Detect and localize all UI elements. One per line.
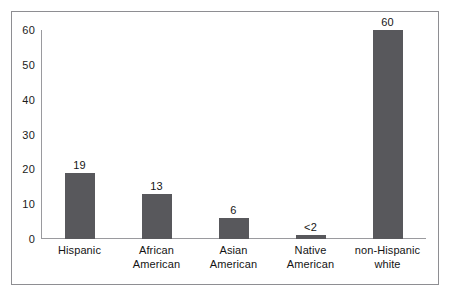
category-label-line: American — [210, 258, 257, 272]
bar[interactable] — [219, 218, 249, 239]
y-tick-label: 40 — [22, 94, 35, 106]
category-label-line: white — [355, 258, 420, 272]
category-label: Native American — [287, 244, 334, 271]
bar-value-label: 13 — [150, 180, 163, 192]
category-label-line: American — [287, 258, 334, 272]
chart-frame: 0 10 20 30 40 50 60 19 13 6 <2 — [11, 11, 439, 285]
category-label-line: American — [133, 258, 180, 272]
category-label: Asian American — [210, 244, 257, 271]
bar-group: <2 — [272, 30, 349, 239]
bar-group: 13 — [118, 30, 195, 239]
y-tick-label: 10 — [22, 198, 35, 210]
plot-area: 0 10 20 30 40 50 60 19 13 6 <2 — [41, 30, 426, 239]
bar[interactable] — [296, 235, 326, 239]
bar[interactable] — [373, 30, 403, 239]
bar[interactable] — [142, 194, 172, 239]
category-label-line: Asian — [210, 244, 257, 258]
category-label: African American — [133, 244, 180, 271]
y-tick-label: 60 — [22, 24, 35, 36]
bar-group: 6 — [195, 30, 272, 239]
bar-group: 19 — [41, 30, 118, 239]
bar-group: 60 — [349, 30, 426, 239]
bar-value-label: <2 — [304, 221, 317, 233]
category-label-line: African — [133, 244, 180, 258]
bar-value-label: 6 — [230, 204, 236, 216]
y-tick-label: 20 — [22, 163, 35, 175]
category-label-line: Native — [287, 244, 334, 258]
bar-value-label: 19 — [73, 159, 86, 171]
x-axis-category-labels: Hispanic African American Asian American… — [41, 244, 426, 286]
y-tick-label: 50 — [22, 59, 35, 71]
y-tick-label: 30 — [22, 129, 35, 141]
y-tick-label: 0 — [29, 233, 35, 245]
bar-value-label: 60 — [381, 16, 394, 28]
category-label-line: non-Hispanic — [355, 244, 420, 258]
bar-series: 19 13 6 <2 60 — [41, 30, 426, 239]
category-label-line: Hispanic — [58, 244, 101, 258]
category-label: non-Hispanic white — [355, 244, 420, 271]
bar[interactable] — [65, 173, 95, 239]
category-label: Hispanic — [58, 244, 101, 258]
